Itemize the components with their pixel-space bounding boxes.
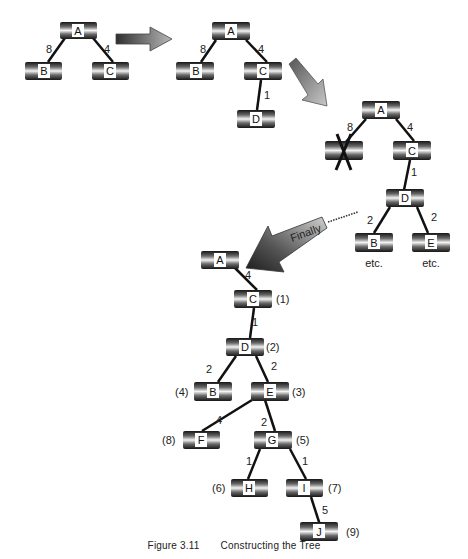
svg-text:E: E [266,386,273,398]
finally-arrow-icon: Finally [246,212,358,272]
weight-label: 1 [246,455,252,467]
svg-text:E: E [427,237,434,249]
svg-text:F: F [198,434,205,446]
weight-label: 2 [367,214,373,226]
stage-1: 8 4 A B C [25,22,129,80]
node-a: A [60,22,97,39]
order-label: (4) [175,386,188,398]
node-a: A [201,251,239,269]
etc-label: etc. [365,257,383,269]
weight-label: 4 [216,414,222,426]
node-c: C [244,62,282,80]
etc-label: etc. [422,257,440,269]
node-a: A [212,22,250,40]
edge-c-d [257,80,261,110]
svg-text:B: B [40,65,47,77]
node-b: B [25,62,62,80]
node-j: J [300,522,338,541]
svg-text:C: C [259,65,267,77]
svg-text:D: D [241,341,249,353]
node-e: E [412,233,450,252]
weight-label: 2 [271,360,277,372]
svg-text:A: A [216,254,224,266]
weight-label: 4 [245,269,251,281]
svg-text:D: D [252,113,260,125]
order-label: (2) [266,341,279,353]
order-label: (7) [328,482,341,494]
weight-label: 4 [104,43,110,55]
svg-text:B: B [209,386,216,398]
dotted-leader [328,212,358,222]
order-label: (9) [346,526,359,538]
down-right-arrow-icon [289,58,327,106]
svg-text:I: I [302,482,305,494]
right-arrow-icon [116,27,172,51]
weight-label: 2 [261,416,267,428]
caption-number: Figure 3.11 [148,540,200,551]
node-f: F [183,431,220,449]
edge-c-d [404,160,410,190]
svg-text:B: B [370,237,377,249]
node-d: D [237,110,275,128]
node-b: B [194,382,232,401]
weight-label: 8 [46,43,52,55]
weight-label: 5 [322,504,328,516]
weight-label: 2 [206,363,212,375]
weight-label: 2 [431,211,437,223]
edge-d-b [218,356,236,382]
weight-label: 1 [411,166,417,178]
edge-e-f [202,400,252,431]
weight-label: 1 [302,455,308,467]
node-i: I [286,479,323,497]
svg-text:A: A [377,104,385,116]
tree-construction-diagram: 8 4 A B C 8 4 1 A [0,0,468,559]
weight-label: 4 [258,43,264,55]
weight-label: 1 [252,316,258,328]
node-h: H [231,479,268,497]
order-label: (8) [162,434,175,446]
weight-label: 4 [407,121,413,133]
node-c: C [393,141,431,160]
weight-label: 8 [200,43,206,55]
edge-i-j [311,497,320,525]
svg-text:H: H [245,482,253,494]
svg-text:C: C [249,293,257,305]
node-b: B [355,233,393,252]
svg-text:G: G [268,434,277,446]
svg-text:A: A [74,25,82,37]
stage-3: 8 4 1 2 2 A C D B [325,101,450,269]
node-b: B [176,62,214,80]
svg-text:D: D [401,192,409,204]
edge-d-b [374,207,390,233]
node-e: E [251,382,289,401]
order-label: (1) [276,293,289,305]
node-c: C [92,62,129,80]
order-label: (5) [296,434,309,446]
weight-label: 8 [347,121,353,133]
svg-text:C: C [408,145,416,157]
svg-text:A: A [227,25,235,37]
edge-d-e [417,207,428,233]
caption-title: Constructing the Tree [221,540,321,551]
figure-caption: Figure 3.11 Constructing the Tree [0,540,468,551]
node-d: D [386,189,424,207]
stage-2: 8 4 1 A B C D [176,22,282,128]
svg-text:B: B [192,65,199,77]
weight-label: 1 [264,89,270,101]
edge-d-e [256,356,268,382]
node-removed [325,134,363,170]
node-c: C [234,290,272,308]
node-g: G [254,431,292,449]
order-label: (3) [292,386,305,398]
node-a: A [362,101,400,119]
svg-text:C: C [106,65,114,77]
svg-text:J: J [316,526,322,538]
order-label: (6) [212,482,225,494]
final-tree: 4 1 2 2 4 2 1 1 5 A C (1) D (2) B [162,251,359,541]
node-d: D [226,338,264,356]
